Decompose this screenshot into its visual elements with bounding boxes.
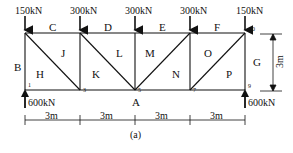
space-label-J: J [61,47,66,59]
space-label-P: P [226,68,232,80]
diagonal-member-10-7 [190,33,245,90]
space-label-C: C [49,21,56,33]
node-number: 4 [84,26,87,32]
space-label-A: A [132,96,140,108]
load-label-node-4: 300kN [70,5,97,16]
node-number: 10 [249,26,255,32]
truss-diagram: 150kN 300kN 300kN 300kN 150kN 600kN 600k… [0,0,293,153]
node-number: 3 [83,87,86,93]
space-label-H: H [36,68,44,80]
reaction-label-node-9: 600kN [248,97,275,108]
diagonal-member-4-5 [80,33,135,90]
load-label-node-2: 150kN [15,5,42,16]
load-label-node-8: 300kN [180,5,207,16]
space-label-F: F [214,21,220,33]
node-number: 9 [248,83,251,89]
span-dimension-3: 3m [155,110,168,121]
diagonal-member-8-5 [135,33,190,90]
space-label-N: N [172,68,180,80]
load-label-node-6: 300kN [125,5,152,16]
space-label-B: B [14,61,21,73]
node-number: 8 [194,26,197,32]
span-dimension-1: 3m [45,110,58,121]
load-label-node-10: 150kN [236,5,263,16]
load-arrows [25,16,245,30]
span-dimension-2: 3m [100,110,113,121]
node-number: 6 [139,26,142,32]
space-label-E: E [159,21,166,33]
space-label-L: L [116,47,123,59]
space-label-G: G [253,56,261,68]
node-number: 2 [29,26,32,32]
space-label-M: M [145,47,155,59]
space-label-D: D [104,21,112,33]
figure-caption: (a) [130,129,141,141]
span-dimension-4: 3m [210,110,223,121]
space-label-O: O [204,47,212,59]
reaction-label-node-1: 600kN [28,97,55,108]
node-number: 1 [28,82,31,88]
space-label-K: K [92,68,100,80]
height-dimension: 3m [274,55,285,68]
diagonal-member-2-3 [25,33,80,90]
node-number: 5 [138,87,141,93]
truss-members [25,33,245,90]
node-number: 7 [193,87,196,93]
